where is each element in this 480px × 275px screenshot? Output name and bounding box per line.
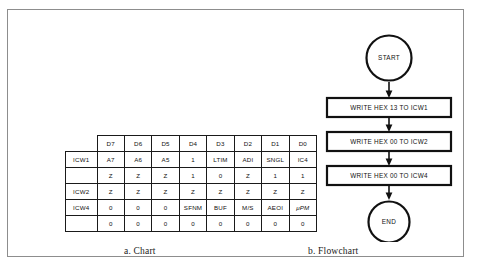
column-header-d2: D2 [234, 136, 261, 152]
cell-icw4val-d6: 0 [124, 216, 151, 232]
flowchart-panel: START WRITE HEX 13 TO ICW1 WRITE HEX 00 … [324, 34, 454, 242]
chart-caption: a. Chart [124, 246, 156, 256]
cell-icw2-d3: Z [207, 184, 234, 200]
cell-icw4-d4: SFNM [179, 200, 206, 216]
cell-icw1-d3: LTIM [207, 152, 234, 168]
cell-icw1-d0: IC4 [289, 152, 316, 168]
flow-node-step1-label: WRITE HEX 13 TO ICW1 [350, 104, 428, 111]
cell-icw1val-d2: Z [234, 168, 261, 184]
cell-icw1val-d4: 1 [179, 168, 206, 184]
row-label-icw1: ICW1 [66, 152, 98, 168]
chart-panel: D7 D6 D5 D4 D3 D2 D1 D0 ICW1 A7 A6 A5 1 … [65, 135, 317, 232]
flow-node-step1[interactable]: WRITE HEX 13 TO ICW1 [327, 98, 451, 117]
cell-icw1val-d5: Z [152, 168, 179, 184]
flow-node-start[interactable]: START [367, 36, 412, 81]
cell-icw1-d2: ADI [234, 152, 261, 168]
table-row: 0 0 0 0 0 0 0 0 [66, 216, 317, 232]
bit-assignment-table: D7 D6 D5 D4 D3 D2 D1 D0 ICW1 A7 A6 A5 1 … [65, 135, 317, 232]
figure-frame: D7 D6 D5 D4 D3 D2 D1 D0 ICW1 A7 A6 A5 1 … [7, 9, 464, 257]
cell-icw1val-d3: 0 [207, 168, 234, 184]
flow-node-step2-label: WRITE HEX 00 TO ICW2 [350, 138, 428, 145]
flow-node-end[interactable]: END [369, 202, 410, 243]
cell-icw4-d2: M/S [234, 200, 261, 216]
column-header-d0: D0 [289, 136, 316, 152]
row-label-icw4: ICW4 [66, 200, 98, 216]
table-row: Z Z Z 1 0 Z 1 1 [66, 168, 317, 184]
flow-node-step2[interactable]: WRITE HEX 00 TO ICW2 [327, 132, 451, 151]
cell-icw2-d6: Z [124, 184, 151, 200]
cell-icw4-d5: 0 [152, 200, 179, 216]
cell-icw4val-d0: 0 [289, 216, 316, 232]
table-corner-cell [66, 136, 98, 152]
cell-icw2-d4: Z [179, 184, 206, 200]
flow-node-start-label: START [378, 54, 400, 61]
cell-icw4val-d7: 0 [97, 216, 124, 232]
cell-icw4val-d2: 0 [234, 216, 261, 232]
column-header-d1: D1 [262, 136, 289, 152]
cell-icw1-d7: A7 [97, 152, 124, 168]
table-row: ICW1 A7 A6 A5 1 LTIM ADI SNGL IC4 [66, 152, 317, 168]
cell-icw2-d0: Z [289, 184, 316, 200]
table-row: ICW2 Z Z Z Z Z Z Z Z [66, 184, 317, 200]
row-label-icw2: ICW2 [66, 184, 98, 200]
cell-icw2-d5: Z [152, 184, 179, 200]
column-header-d6: D6 [124, 136, 151, 152]
cell-icw1val-d0: 1 [289, 168, 316, 184]
column-header-d4: D4 [179, 136, 206, 152]
cell-icw4val-d1: 0 [262, 216, 289, 232]
flow-connector-start-step1 [386, 82, 393, 98]
flow-connector-step3-end [386, 184, 393, 200]
row-label-icw1-values [66, 168, 98, 184]
table-header-row: D7 D6 D5 D4 D3 D2 D1 D0 [66, 136, 317, 152]
cell-icw4val-d5: 0 [152, 216, 179, 232]
column-header-d3: D3 [207, 136, 234, 152]
cell-icw4-d6: 0 [124, 200, 151, 216]
cell-icw1val-d7: Z [97, 168, 124, 184]
cell-icw4-d1: AEOI [262, 200, 289, 216]
cell-icw1-d6: A6 [124, 152, 151, 168]
cell-icw4val-d4: 0 [179, 216, 206, 232]
cell-icw2-d2: Z [234, 184, 261, 200]
flow-node-step3-label: WRITE HEX 00 TO ICW4 [350, 172, 428, 179]
cell-icw1val-d6: Z [124, 168, 151, 184]
cell-icw1-d1: SNGL [262, 152, 289, 168]
cell-icw1-d4: 1 [179, 152, 206, 168]
table-row: ICW4 0 0 0 SFNM BUF M/S AEOI μPM [66, 200, 317, 216]
cell-icw1val-d1: 1 [262, 168, 289, 184]
column-header-d7: D7 [97, 136, 124, 152]
cell-icw2-d1: Z [262, 184, 289, 200]
flow-connector-step2-step3 [386, 150, 393, 166]
cell-icw4-d3: BUF [207, 200, 234, 216]
column-header-d5: D5 [152, 136, 179, 152]
flow-node-step3[interactable]: WRITE HEX 00 TO ICW4 [327, 166, 451, 185]
flow-node-end-label: END [382, 218, 396, 225]
cell-icw4val-d3: 0 [207, 216, 234, 232]
cell-icw4-d7: 0 [97, 200, 124, 216]
cell-icw2-d7: Z [97, 184, 124, 200]
cell-icw4-d0: μPM [289, 200, 316, 216]
row-label-icw4-values [66, 216, 98, 232]
flowchart-caption: b. Flowchart [308, 246, 358, 256]
flow-connector-step1-step2 [386, 116, 393, 132]
cell-icw1-d5: A5 [152, 152, 179, 168]
